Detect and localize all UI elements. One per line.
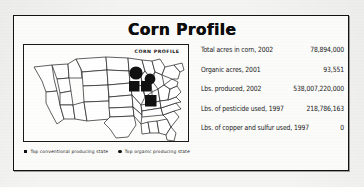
legend-label-conventional: Top conventional producing state — [30, 149, 108, 154]
square-marker-icon — [24, 150, 27, 153]
stats-list: Total acres in corn, 2002 78,894,000 Org… — [201, 45, 344, 143]
stat-label: Lbs. produced, 2002 — [201, 84, 261, 93]
stat-value: 78,894,000 — [310, 45, 344, 54]
us-map-panel: CORN PROFILE — [23, 44, 189, 142]
map-legend: Top conventional producing state Top org… — [24, 149, 190, 154]
legend-label-organic: Top organic producing state — [125, 149, 190, 154]
stat-label: Organic acres, 2001 — [201, 65, 260, 74]
corn-profile-card: Corn Profile CORN PROFILE — [13, 15, 349, 171]
stat-row: Total acres in corn, 2002 78,894,000 — [201, 45, 344, 65]
stat-label: Total acres in corn, 2002 — [201, 45, 273, 54]
us-map-graphic — [24, 45, 189, 142]
legend-item-conventional: Top conventional producing state — [24, 149, 108, 154]
stat-row: Organic acres, 2001 93,551 — [201, 65, 344, 85]
stat-value: 218,786,163 — [306, 104, 344, 113]
stat-value: 0 — [340, 123, 344, 132]
stat-row: Lbs. of pesticide used, 1997 218,786,163 — [201, 104, 344, 124]
stat-value: 538,007,220,000 — [293, 84, 344, 93]
stat-row: Lbs. of copper and sulfur used, 1997 0 — [201, 123, 344, 143]
circle-marker-icon — [118, 150, 122, 154]
stat-row: Lbs. produced, 2002 538,007,220,000 — [201, 84, 344, 104]
page-title: Corn Profile — [14, 21, 350, 39]
scanned-page: Corn Profile CORN PROFILE — [0, 0, 364, 187]
legend-item-organic: Top organic producing state — [118, 149, 190, 154]
stat-value: 93,551 — [323, 65, 344, 74]
stat-label: Lbs. of copper and sulfur used, 1997 — [201, 123, 309, 132]
stat-label: Lbs. of pesticide used, 1997 — [201, 104, 284, 113]
